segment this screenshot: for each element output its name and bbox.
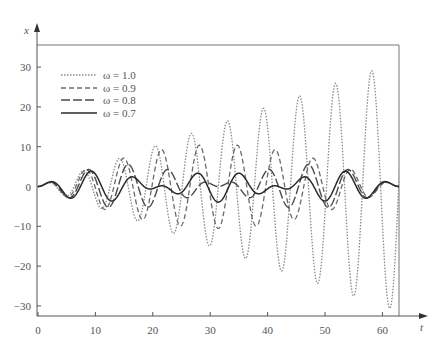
y-axis-label: x: [23, 24, 29, 36]
x-axis-label: t: [420, 321, 424, 333]
y-tick-label: −10: [14, 220, 32, 232]
curve-omega-1.0: [38, 71, 401, 309]
legend-item-omega-1.0: ω = 1.0: [61, 69, 136, 81]
y-tick-label: 10: [20, 141, 32, 153]
x-tick-label: 50: [320, 324, 332, 336]
x-tick-label: 60: [377, 324, 389, 336]
x-axis-arrow-icon: [419, 313, 428, 319]
y-axis-arrow-icon: [34, 23, 40, 32]
legend-label: ω = 0.8: [103, 94, 136, 106]
y-tick-label: −20: [14, 260, 32, 272]
y-tick-label: 30: [20, 61, 32, 73]
y-tick-label: 20: [20, 101, 32, 113]
legend-label: ω = 1.0: [103, 69, 136, 81]
curves: [38, 71, 401, 309]
x-tick-label: 40: [262, 324, 274, 336]
legend-label: ω = 0.7: [103, 107, 136, 119]
legend-item-omega-0.7: ω = 0.7: [61, 107, 136, 119]
x-tick-label: 10: [90, 324, 102, 336]
y-tick-label: −30: [14, 300, 32, 312]
legend-item-omega-0.9: ω = 0.9: [61, 82, 136, 94]
x-tick-label: 20: [147, 324, 159, 336]
chart-canvas: x t 0102030405060 3020100−10−20−30 ω = 1…: [0, 0, 442, 348]
x-tick-label: 0: [35, 324, 41, 336]
y-tick-label: 0: [26, 181, 32, 193]
x-tick-label: 30: [205, 324, 217, 336]
legend: ω = 1.0 ω = 0.9 ω = 0.8 ω = 0.7: [61, 69, 136, 119]
legend-item-omega-0.8: ω = 0.8: [61, 94, 136, 106]
legend-label: ω = 0.9: [103, 82, 136, 94]
